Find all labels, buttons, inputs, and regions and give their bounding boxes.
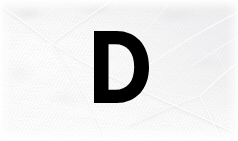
letter-character: D [94, 103, 95, 104]
letter-overlay-layer: D [0, 0, 238, 141]
image-canvas: D [0, 0, 238, 141]
letter-d-glyph: D [94, 31, 149, 103]
